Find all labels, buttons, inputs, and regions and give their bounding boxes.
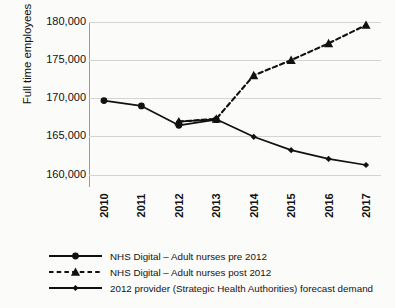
x-tick-label: 2010 xyxy=(98,183,109,229)
x-tick-label: 2017 xyxy=(361,183,372,229)
chart-legend: NHS Digital – Adult nurses pre 2012NHS D… xyxy=(48,248,393,296)
legend-label: NHS Digital – Adult nurses post 2012 xyxy=(110,267,271,278)
x-tick-label: 2014 xyxy=(248,183,259,229)
triangle-marker xyxy=(249,71,258,79)
x-tick-label: 2011 xyxy=(136,183,147,229)
x-tick-label: 2012 xyxy=(173,183,184,229)
legend-label: NHS Digital – Adult nurses pre 2012 xyxy=(110,251,267,262)
series-plot xyxy=(89,22,381,186)
triangle-marker xyxy=(361,20,370,28)
y-axis-tick-labels: 160,000165,000170,000175,000180,000 xyxy=(30,0,86,200)
circle-marker xyxy=(138,103,145,110)
circle-marker xyxy=(72,253,79,260)
series-line-2 xyxy=(179,119,366,165)
series-line-0 xyxy=(104,101,216,126)
line-chart-figure: Full time employees 160,000165,000170,00… xyxy=(0,0,395,308)
legend-label: 2012 provider (Strategic Health Authorit… xyxy=(110,283,373,294)
diamond-marker xyxy=(288,147,294,153)
y-tick-label: 165,000 xyxy=(30,130,86,141)
circle-marker xyxy=(101,97,108,104)
legend-key-triangle-icon xyxy=(48,265,103,279)
plot-area xyxy=(89,22,381,186)
series-line-1 xyxy=(179,25,366,121)
diamond-marker xyxy=(72,285,78,291)
diamond-marker xyxy=(251,134,257,140)
x-tick-label: 2013 xyxy=(211,183,222,229)
x-tick-label: 2016 xyxy=(323,183,334,229)
y-tick-label: 170,000 xyxy=(30,92,86,103)
y-tick-label: 180,000 xyxy=(30,16,86,27)
legend-key-circle-icon xyxy=(48,249,103,263)
legend-item: NHS Digital – Adult nurses post 2012 xyxy=(48,264,393,280)
y-tick-label: 175,000 xyxy=(30,54,86,65)
y-tick-label: 160,000 xyxy=(30,169,86,180)
legend-item: NHS Digital – Adult nurses pre 2012 xyxy=(48,248,393,264)
legend-key-diamond-icon xyxy=(48,281,103,295)
diamond-marker xyxy=(363,162,369,168)
legend-item: 2012 provider (Strategic Health Authorit… xyxy=(48,280,393,296)
x-axis-tick-labels: 20102011201220132014201520162017 xyxy=(89,186,381,240)
diamond-marker xyxy=(325,156,331,162)
x-tick-label: 2015 xyxy=(286,183,297,229)
